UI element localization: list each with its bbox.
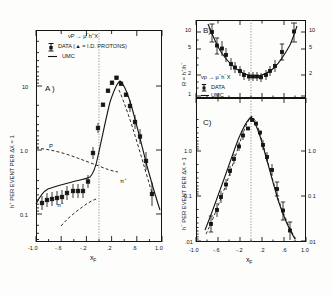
- panel-c-xtick-3: .2: [260, 247, 265, 253]
- panel-a-plot: [36, 30, 162, 242]
- panel-c-ytick-01: 0.1: [184, 193, 192, 199]
- panel-a-xtick-2: -.2: [80, 245, 87, 251]
- panel-a-xtick-3: .2: [107, 245, 112, 251]
- panel-a-xtick-4: .6: [132, 245, 137, 251]
- panel-a-ytick-1: 1.0: [20, 148, 28, 154]
- panel-c-ytick-right-1: 1.0: [308, 148, 316, 154]
- panel-c-xtick-4: .6: [282, 247, 287, 253]
- panel-c-xtick-0: -1.0: [189, 247, 199, 253]
- panel-c-xtick-1: -.6: [213, 247, 220, 253]
- panel-c-xlabel: xF: [246, 256, 252, 263]
- panel-c-xtick-2: -.2: [236, 247, 243, 253]
- panel-c-ytick-1: 1.0: [184, 148, 192, 154]
- panel-a-xtick-5: 1.0: [155, 245, 163, 251]
- panel-a-ytick-01: 0.1: [20, 212, 28, 218]
- panel-a-ylabel: h+ PER EVENT PER ΔX = 1: [9, 135, 15, 208]
- panel-c-plot: [196, 98, 306, 242]
- panel-a-xtick-1: -.6: [55, 245, 62, 251]
- panel-a-ytick-10: 10: [22, 84, 28, 90]
- panel-a-xtick-0: -1.0: [28, 245, 38, 251]
- panel-c-corner-right: .01: [308, 239, 316, 245]
- panel-c: C) h− PER EVENT PER ΔX = 1 1.0 0.1 .01 1…: [175, 0, 331, 296]
- panel-c-xtick-5: 1.0: [301, 247, 309, 253]
- figure-root: A ) νP → μ−h+X DATA (▲ = I.D. PROTONS) U…: [0, 0, 331, 296]
- panel-a: A ) νP → μ−h+X DATA (▲ = I.D. PROTONS) U…: [0, 0, 175, 296]
- panel-a-xlabel: xF: [90, 254, 96, 261]
- panel-c-ytick-right-01: 0.1: [308, 193, 316, 199]
- panel-c-corner-left: .01: [185, 239, 193, 245]
